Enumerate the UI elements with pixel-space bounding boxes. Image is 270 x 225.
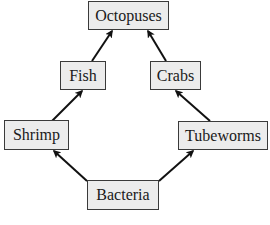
arrow-fish-to-octopuses [92,31,112,61]
node-crabs: Crabs [150,61,201,90]
arrow-bacteria-to-tubeworms [159,151,193,181]
arrow-crabs-to-octopuses [148,31,166,61]
node-label: Bacteria [96,187,149,203]
node-label: Shrimp [13,127,60,143]
node-label: Crabs [157,68,194,84]
node-label: Tubeworms [185,128,261,144]
arrow-tubeworms-to-crabs [176,91,210,121]
node-octopuses: Octopuses [88,1,169,30]
arrow-bacteria-to-shrimp [54,151,87,181]
node-label: Fish [69,68,97,84]
node-shrimp: Shrimp [4,120,69,150]
node-label: Octopuses [95,8,162,24]
node-tubeworms: Tubeworms [178,121,268,150]
food-web-diagram: Octopuses Fish Crabs Shrimp Tubeworms Ba… [0,0,270,225]
arrow-shrimp-to-fish [52,91,82,121]
node-fish: Fish [60,61,106,90]
node-bacteria: Bacteria [87,180,159,210]
